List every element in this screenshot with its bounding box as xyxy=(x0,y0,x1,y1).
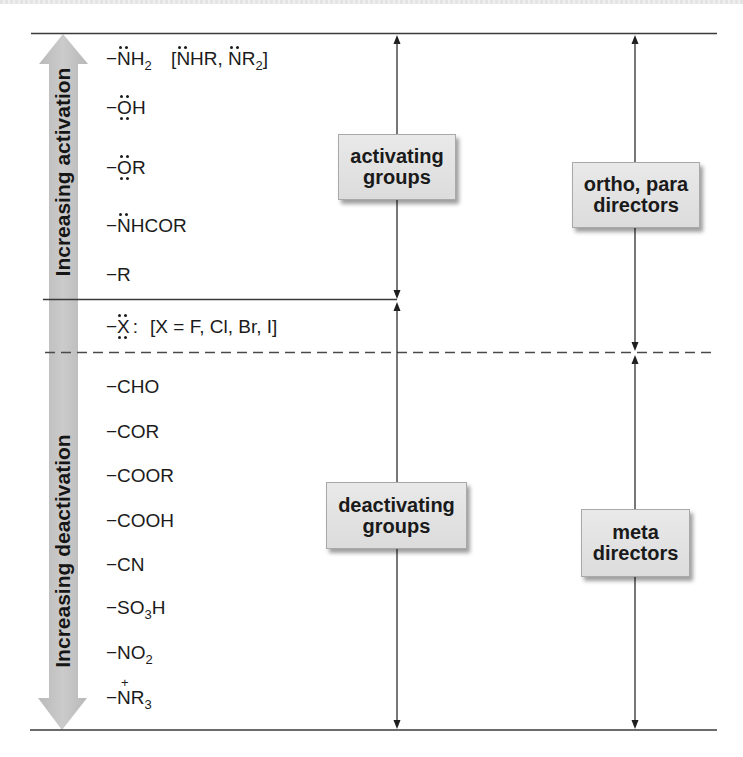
subscript: 2 xyxy=(146,652,153,667)
substituent-ammonium: −N+R3 xyxy=(106,687,152,709)
box-label-line1: ortho, para xyxy=(584,174,688,195)
formula-text: −CHO xyxy=(106,376,159,397)
formula-tail: HR, xyxy=(190,48,228,69)
lone-pair-colon: : xyxy=(133,316,138,337)
bond-dash: − xyxy=(106,687,117,708)
box-label-line2: directors xyxy=(593,195,679,216)
formula-text: −COOR xyxy=(106,465,174,486)
bracket-close: ] xyxy=(263,48,268,69)
increasing-activation-label: Increasing activation xyxy=(52,68,74,277)
increasing-deactivation-label: Increasing deactivation xyxy=(52,434,74,667)
substituent-effects-diagram: Increasing activation Increasing deactiv… xyxy=(0,0,743,757)
substituent-sulfonic-acid: −SO3H xyxy=(106,597,166,619)
substituent-ketone: −COR xyxy=(106,421,159,443)
substituent-nitro: −NO2 xyxy=(106,642,153,664)
bond-dash: − xyxy=(106,316,117,337)
arrowhead-down-icon xyxy=(394,290,401,299)
halogen-note: [X = F, Cl, Br, I] xyxy=(150,316,277,337)
charged-atom: N+ xyxy=(117,687,131,709)
subscript: 2 xyxy=(145,58,152,73)
atom-with-lone-pairs: O xyxy=(117,97,132,119)
atom-with-lone-pairs: O xyxy=(117,157,132,179)
formula-text: −CN xyxy=(106,554,145,575)
box-label-line1: meta xyxy=(612,522,659,543)
bond-dash: − xyxy=(106,157,117,178)
ortho-para-directors-box: ortho, para directors xyxy=(572,162,700,228)
substituent-halogen: −X:[X = F, Cl, Br, I] xyxy=(106,316,277,338)
atom-with-lone-pair: N xyxy=(117,215,131,237)
box-label-line2: groups xyxy=(363,516,431,537)
formula-atom: N xyxy=(117,687,131,708)
bond-dash: − xyxy=(106,264,117,285)
box-label-line2: directors xyxy=(593,543,679,564)
deactivating-groups-box: deactivating groups xyxy=(326,482,467,549)
subscript: 2 xyxy=(256,58,263,73)
formula-tail: H xyxy=(131,48,145,69)
substituent-alkoxy: −OR xyxy=(106,157,146,179)
substituent-ester: −COOR xyxy=(106,465,174,487)
bond-dash: − xyxy=(106,215,117,236)
amine-variants: [NHR, NR2] xyxy=(171,48,268,69)
atom-with-lone-pairs: X xyxy=(117,316,130,338)
formula-tail: HCOR xyxy=(131,215,187,236)
arrowhead-down-icon xyxy=(632,720,639,729)
subscript: 3 xyxy=(145,607,152,622)
formula-tail: R xyxy=(242,48,256,69)
substituent-aldehyde: −CHO xyxy=(106,376,159,398)
formula-text: −COOH xyxy=(106,510,174,531)
box-label-line1: activating xyxy=(350,146,443,167)
formula-tail: R xyxy=(131,687,145,708)
activating-groups-box: activating groups xyxy=(338,134,456,200)
substituent-alkyl: −R xyxy=(106,264,131,286)
meta-directors-box: meta directors xyxy=(581,509,690,577)
substituent-carboxylic-acid: −COOH xyxy=(106,510,174,532)
box-label-line2: groups xyxy=(363,167,431,188)
bond-dash: − xyxy=(106,97,117,118)
substituent-amino: −NH2 [NHR, NR2] xyxy=(106,48,268,70)
formula-text: −SO xyxy=(106,597,145,618)
formula-text: −COR xyxy=(106,421,159,442)
substituent-nitrile: −CN xyxy=(106,554,145,576)
bond-dash: − xyxy=(106,48,117,69)
atom-with-lone-pair: N xyxy=(117,48,131,70)
substituent-amide: −NHCOR xyxy=(106,215,187,237)
formula-tail: H xyxy=(132,97,146,118)
formula-tail: R xyxy=(132,157,146,178)
atom-with-lone-pair: N xyxy=(176,48,190,70)
atom-with-lone-pair: N xyxy=(228,48,242,70)
arrowhead-down-icon xyxy=(632,342,639,351)
formula-text: −NO xyxy=(106,642,146,663)
positive-charge: + xyxy=(121,676,129,689)
subscript: 3 xyxy=(145,697,152,712)
arrowhead-down-icon xyxy=(394,720,401,729)
formula-atom: R xyxy=(117,264,131,285)
box-label-line1: deactivating xyxy=(338,495,455,516)
formula-tail: H xyxy=(152,597,166,618)
substituent-hydroxyl: −OH xyxy=(106,97,146,119)
